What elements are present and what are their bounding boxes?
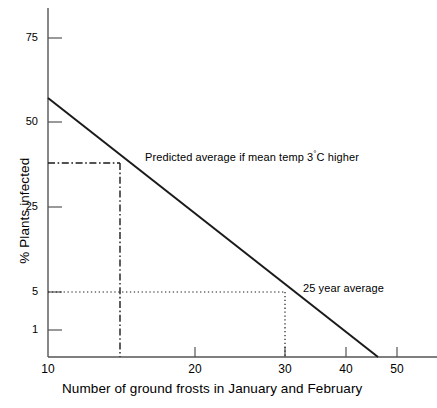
annotation-25-year-average: 25 year average — [303, 283, 384, 294]
x-tick-label-30: 30 — [265, 363, 305, 375]
chart-figure: 75 50 25 5 1 10 20 30 40 50 Number of gr… — [0, 0, 437, 408]
x-tick-label-10: 10 — [28, 363, 68, 375]
x-tick-label-40: 40 — [326, 363, 366, 375]
y-axis-title: % Plants infected — [18, 141, 32, 281]
annotation-predicted-average: Predicted average if mean temp 3°C highe… — [145, 152, 359, 163]
annotation-predicted-average-tail: C higher — [317, 151, 359, 163]
reference-line-predicted-average — [48, 163, 120, 357]
regression-line — [48, 98, 378, 357]
chart-plot-area — [0, 0, 437, 408]
x-tick-label-20: 20 — [175, 363, 215, 375]
x-tick-label-50: 50 — [377, 363, 417, 375]
y-tick-label-1: 1 — [12, 324, 38, 335]
reference-line-25-year-average — [48, 292, 285, 357]
y-tick-label-50: 50 — [12, 116, 38, 127]
x-axis-title: Number of ground frosts in January and F… — [62, 382, 362, 396]
annotation-predicted-average-text: Predicted average if mean temp 3 — [145, 151, 313, 163]
y-tick-label-75: 75 — [12, 32, 38, 43]
y-axis-ticks — [48, 38, 62, 330]
y-tick-label-5: 5 — [12, 286, 38, 297]
